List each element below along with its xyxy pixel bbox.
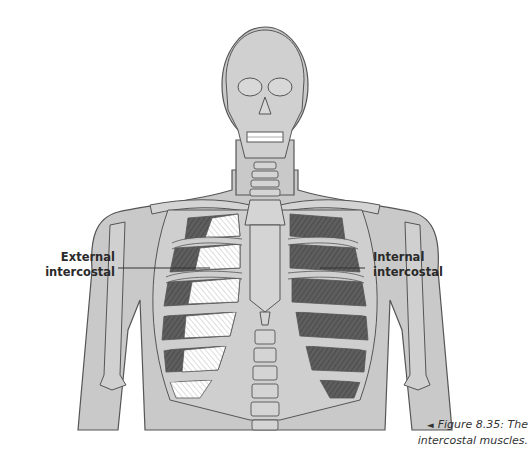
internal-intercostal-label: Internal intercostal <box>373 250 463 280</box>
intercostal-anatomy-illustration <box>0 0 528 466</box>
figure-caption: ◄Figure 8.35: The intercostal muscles. <box>410 417 528 449</box>
skull <box>226 30 304 158</box>
internal-label-line1: Internal <box>373 250 463 265</box>
external-intercostal-label: External intercostal <box>40 250 115 280</box>
internal-label-line2: intercostal <box>373 265 463 280</box>
caption-line1-text: Figure 8.35: The <box>438 418 528 431</box>
external-label-line2: intercostal <box>40 265 115 280</box>
caption-line2: intercostal muscles. <box>410 433 528 449</box>
caption-line1: ◄Figure 8.35: The <box>410 417 528 433</box>
left-arrow-icon: ◄ <box>427 420 434 430</box>
external-label-line1: External <box>40 250 115 265</box>
